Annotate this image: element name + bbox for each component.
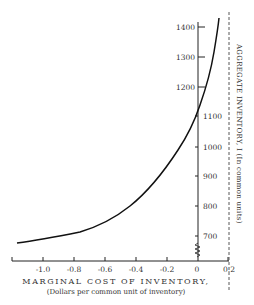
x-tick-label: -1.0 (36, 265, 51, 274)
y-tick-label: 700 (203, 232, 218, 241)
y-tick-label: 1100 (203, 112, 222, 121)
y-axis-title: AGGREGATE INVENTORY, I (In common units) (235, 43, 243, 224)
x-axis-subtitle: (Dollars per common unit of inventory) (47, 288, 186, 296)
x-tick-label: 0 (195, 265, 200, 274)
chart: 1400 1300 1200 1100 1000 900 800 700 -1.… (0, 0, 254, 305)
y-tick-label: 900 (203, 172, 218, 181)
x-tick-label: -0.4 (129, 265, 144, 274)
x-tick-label: -0.2 (160, 265, 175, 274)
x-axis-title: MARGINAL COST OF INVENTORY, (22, 277, 209, 286)
y-tick-label: 800 (203, 202, 218, 211)
x-ticks (12, 257, 228, 261)
y-tick-label: 1000 (203, 143, 222, 152)
y-tick-label: 1300 (176, 53, 195, 62)
y-tick-label: 1400 (176, 23, 195, 32)
data-curve (17, 18, 219, 243)
y-tick-label: 1200 (176, 83, 195, 92)
x-tick-label: -0.8 (67, 265, 82, 274)
x-tick-label: -0.6 (98, 265, 113, 274)
